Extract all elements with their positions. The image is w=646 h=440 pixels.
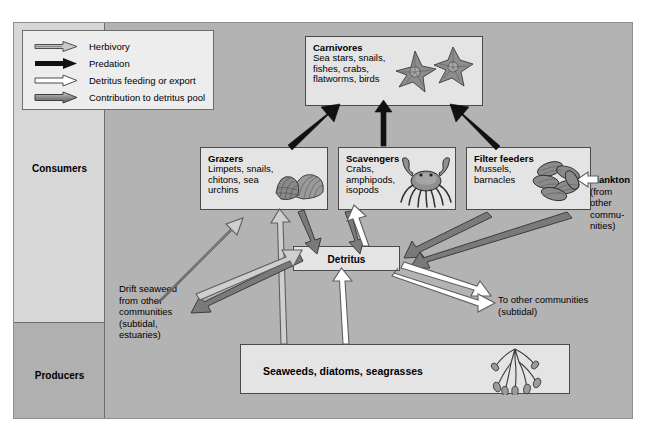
legend-panel: Herbivory Predation Detritus feeding or …	[22, 30, 214, 110]
box-carnivores-line-3: flatworms, birds	[313, 74, 482, 85]
annotation-plankton-line-3: commu-	[590, 209, 642, 221]
diagram-canvas: Consumers Producers	[0, 0, 646, 440]
box-grazers-line-3: urchins	[208, 185, 327, 196]
annotation-export-line-1: To other communities	[498, 294, 628, 306]
box-filter-feeders-line-1: Mussels,	[474, 164, 590, 175]
legend-item-herbivory: Herbivory	[23, 38, 213, 55]
annotation-plankton-line-1: (from	[590, 186, 642, 198]
box-scavengers-line-1: Crabs,	[346, 164, 455, 175]
annotation-plankton: Plankton (from other commu- nities)	[590, 174, 642, 232]
trophic-level-producers: Producers	[14, 322, 105, 418]
legend-item-detritus-pool-label: Contribution to detritus pool	[89, 92, 205, 103]
box-detritus: Detritus	[293, 246, 400, 271]
annotation-plankton-title: Plankton	[590, 174, 642, 186]
box-carnivores-line-1: Sea stars, snails,	[313, 53, 482, 64]
annotation-drift-seaweed-line-1: Drift seaweed	[119, 283, 201, 295]
legend-item-predation-label: Predation	[89, 58, 130, 69]
box-grazers-line-1: Limpets, snails,	[208, 164, 327, 175]
annotation-drift-seaweed-line-4: (subtidal,	[119, 318, 201, 330]
annotation-drift-seaweed-line-3: communities	[119, 306, 201, 318]
legend-item-detritus-feeding-label: Detritus feeding or export	[89, 75, 196, 86]
annotation-plankton-line-2: other	[590, 197, 642, 209]
legend-item-predation: Predation	[23, 55, 213, 72]
annotation-export-line-2: (subtidal)	[498, 306, 628, 318]
box-producers-label: Seaweeds, diatoms, seagrasses	[241, 345, 569, 377]
box-filter-feeders: Filter feeders Mussels, barnacles	[466, 147, 591, 210]
box-producers: Seaweeds, diatoms, seagrasses	[240, 344, 570, 394]
legend-item-herbivory-label: Herbivory	[89, 41, 130, 52]
box-grazers: Grazers Limpets, snails, chitons, sea ur…	[200, 147, 328, 210]
legend-item-detritus-feeding: Detritus feeding or export	[23, 72, 213, 89]
box-scavengers-line-3: isopods	[346, 185, 455, 196]
annotation-drift-seaweed: Drift seaweed from other communities (su…	[119, 283, 201, 341]
box-scavengers: Scavengers Crabs, amphipods, isopods	[338, 147, 456, 210]
annotation-drift-seaweed-line-2: from other	[119, 295, 201, 307]
box-filter-feeders-line-2: barnacles	[474, 175, 590, 186]
box-carnivores: Carnivores Sea stars, snails, fishes, cr…	[305, 36, 483, 106]
annotation-plankton-line-4: nities)	[590, 220, 642, 232]
annotation-drift-seaweed-line-5: estuaries)	[119, 329, 201, 341]
trophic-level-producers-label: Producers	[14, 370, 105, 381]
arrow-right-icon	[33, 74, 83, 87]
arrow-right-icon	[33, 57, 83, 70]
legend-item-detritus-pool: Contribution to detritus pool	[23, 89, 213, 106]
box-detritus-label: Detritus	[294, 247, 399, 272]
trophic-level-consumers-label: Consumers	[14, 163, 105, 174]
arrow-right-icon	[33, 40, 83, 53]
annotation-export: To other communities (subtidal)	[498, 294, 628, 317]
arrow-right-icon	[33, 91, 83, 104]
